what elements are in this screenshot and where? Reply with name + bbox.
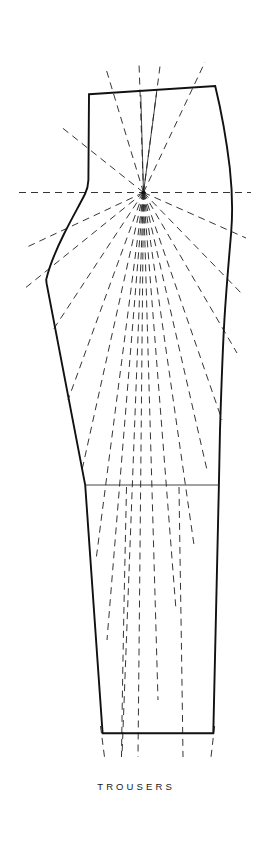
pivot-hub-layer	[142, 191, 146, 195]
dart-line-layer	[141, 93, 157, 193]
trouser-front-block-outline	[46, 86, 232, 733]
ray-up-right	[144, 62, 206, 193]
ray-down-8	[144, 193, 177, 611]
pivot-ray-fan	[24, 62, 246, 757]
hem-extension-layer	[101, 726, 215, 757]
leg-guide-layer	[122, 487, 184, 757]
pattern-outline-layer	[46, 86, 232, 733]
ray-down-1	[68, 193, 144, 401]
trousers-pattern-drawing	[0, 0, 269, 851]
dart-leg-left	[141, 95, 144, 193]
ray-down-6	[138, 193, 144, 758]
ray-down-7	[144, 193, 159, 701]
pivot-hub-dot	[142, 191, 146, 195]
ray-left-mid	[27, 193, 144, 248]
pattern-diagram-root: TROUSERS	[0, 0, 269, 851]
ray-up-left	[107, 71, 144, 193]
ray-down-4	[107, 193, 144, 641]
ray-down-11	[144, 193, 223, 421]
ray-down-10	[144, 193, 208, 471]
leg-guide-outer	[179, 487, 183, 757]
diagram-caption: TROUSERS	[0, 781, 269, 792]
ray-left-up	[60, 126, 144, 193]
leg-guide-inner	[122, 487, 127, 757]
ray-down-9	[144, 193, 195, 546]
ray-left-diag	[53, 193, 144, 331]
